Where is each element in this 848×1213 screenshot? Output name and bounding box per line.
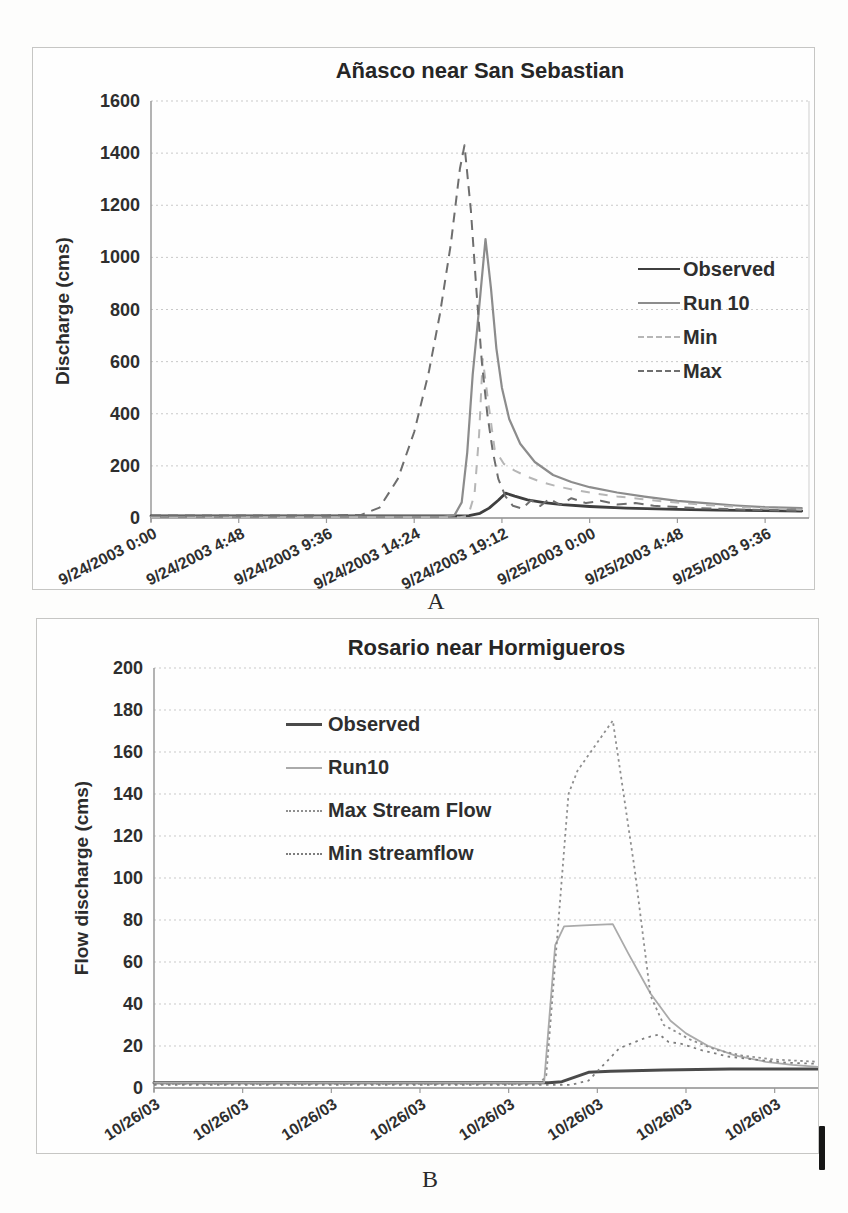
y-tick-label: 100 bbox=[113, 868, 143, 888]
chart-a-title: Añasco near San Sebastian bbox=[151, 58, 809, 84]
legend-label: Observed bbox=[328, 713, 420, 736]
y-tick-label: 120 bbox=[113, 826, 143, 846]
legend-item-run10: Run10 bbox=[286, 746, 491, 789]
x-tick-label: 9/24/2003 0:00 bbox=[56, 524, 160, 588]
legend-label: Max Stream Flow bbox=[328, 799, 491, 822]
scan-artifact-bar bbox=[819, 1126, 825, 1170]
chart-a-container: 020040060080010001200140016009/24/2003 0… bbox=[32, 47, 815, 590]
y-tick-label: 40 bbox=[123, 994, 143, 1014]
chart-b-y-axis-title: Flow discharge (cms) bbox=[71, 778, 93, 978]
x-tick-label: 9/25/2003 0:00 bbox=[494, 524, 598, 588]
series-line-observed bbox=[154, 1069, 818, 1083]
x-tick-label: 10/26/03 bbox=[367, 1095, 429, 1143]
legend-label: Max bbox=[683, 360, 722, 383]
legend-item-min-streamflow: Min streamflow bbox=[286, 832, 491, 875]
legend-label: Min streamflow bbox=[328, 842, 474, 865]
legend-sample-line bbox=[286, 853, 322, 855]
legend-item-run-10: Run 10 bbox=[638, 286, 775, 320]
x-tick-label: 9/25/2003 4:48 bbox=[582, 524, 686, 588]
x-tick-label: 10/26/03 bbox=[544, 1095, 606, 1143]
legend-item-min: Min bbox=[638, 320, 775, 354]
legend-label: Run10 bbox=[328, 756, 389, 779]
legend-sample-line bbox=[638, 370, 680, 372]
legend-sample-line bbox=[286, 810, 322, 812]
y-tick-label: 20 bbox=[123, 1036, 143, 1056]
chart-a-y-axis-title: Discharge (cms) bbox=[52, 231, 74, 391]
legend-sample-line bbox=[286, 767, 322, 769]
chart-b-plot: 02040608010012014016018020010/26/0310/26… bbox=[37, 619, 818, 1153]
chart-b-legend: ObservedRun10Max Stream FlowMin streamfl… bbox=[286, 703, 491, 875]
x-tick-label: 10/26/03 bbox=[456, 1095, 518, 1143]
y-tick-label: 60 bbox=[123, 952, 143, 972]
y-tick-label: 0 bbox=[130, 508, 140, 528]
y-tick-label: 600 bbox=[110, 352, 140, 372]
legend-label: Min bbox=[683, 326, 717, 349]
chart-b-title: Rosario near Hormigueros bbox=[154, 635, 819, 661]
x-tick-label: 10/26/03 bbox=[633, 1095, 695, 1143]
legend-item-max-stream-flow: Max Stream Flow bbox=[286, 789, 491, 832]
figure-caption-a: A bbox=[24, 588, 848, 615]
legend-label: Observed bbox=[683, 258, 775, 281]
x-tick-label: 9/25/2003 9:36 bbox=[670, 524, 774, 588]
figure-caption-b: B bbox=[12, 1166, 848, 1193]
y-tick-label: 80 bbox=[123, 910, 143, 930]
y-tick-label: 140 bbox=[113, 784, 143, 804]
series-line-min-streamflow bbox=[154, 1034, 818, 1085]
y-tick-label: 400 bbox=[110, 404, 140, 424]
x-tick-label: 10/26/03 bbox=[101, 1095, 163, 1143]
y-tick-label: 1400 bbox=[100, 143, 140, 163]
y-tick-label: 180 bbox=[113, 700, 143, 720]
chart-b-container: 02040608010012014016018020010/26/0310/26… bbox=[36, 618, 819, 1154]
y-tick-label: 0 bbox=[133, 1078, 143, 1098]
legend-label: Run 10 bbox=[683, 292, 750, 315]
y-tick-label: 1200 bbox=[100, 195, 140, 215]
legend-sample-line bbox=[638, 336, 680, 338]
legend-item-observed: Observed bbox=[638, 252, 775, 286]
chart-a-legend: ObservedRun 10MinMax bbox=[638, 252, 775, 388]
y-tick-label: 1600 bbox=[100, 91, 140, 111]
y-tick-label: 1000 bbox=[100, 247, 140, 267]
scanned-figure-page: 020040060080010001200140016009/24/2003 0… bbox=[0, 0, 848, 1213]
legend-sample-line bbox=[638, 302, 680, 304]
x-tick-label: 9/24/2003 4:48 bbox=[143, 524, 247, 588]
legend-item-max: Max bbox=[638, 354, 775, 388]
legend-sample-line bbox=[286, 723, 322, 726]
y-tick-label: 200 bbox=[113, 658, 143, 678]
legend-sample-line bbox=[638, 268, 680, 270]
y-tick-label: 200 bbox=[110, 456, 140, 476]
x-tick-label: 10/26/03 bbox=[190, 1095, 252, 1143]
x-tick-label: 10/26/03 bbox=[722, 1095, 784, 1143]
series-line-observed bbox=[151, 493, 802, 516]
y-tick-label: 800 bbox=[110, 300, 140, 320]
x-tick-label: 10/26/03 bbox=[278, 1095, 340, 1143]
legend-item-observed: Observed bbox=[286, 703, 491, 746]
y-tick-label: 160 bbox=[113, 742, 143, 762]
